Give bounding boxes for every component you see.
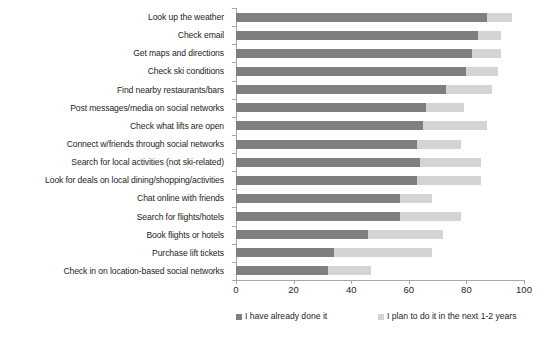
bar-row — [236, 49, 524, 58]
bar-segment-planned — [420, 158, 480, 167]
bar-row — [236, 194, 524, 203]
bar-segment-done — [236, 67, 466, 76]
bar-segment-done — [236, 85, 446, 94]
category-label: Check in on location-based social networ… — [63, 266, 224, 276]
category-label: Book flights or hotels — [146, 230, 224, 240]
y-axis-tick — [232, 171, 236, 172]
bar-segment-planned — [487, 13, 513, 22]
bar-segment-done — [236, 248, 334, 257]
bar-row — [236, 212, 524, 221]
category-label: Check email — [178, 30, 224, 40]
bar-segment-planned — [368, 230, 443, 239]
bar-row — [236, 230, 524, 239]
bar-segment-done — [236, 49, 472, 58]
bar-segment-done — [236, 212, 400, 221]
bar-segment-planned — [426, 103, 463, 112]
bar-segment-done — [236, 121, 423, 130]
x-axis-tick-label: 80 — [461, 284, 472, 296]
bar-segment-done — [236, 103, 426, 112]
y-axis-tick — [232, 62, 236, 63]
bar-row — [236, 13, 524, 22]
category-label: Search for local activities (not ski-rel… — [71, 157, 224, 167]
y-axis-tick — [232, 81, 236, 82]
category-label: Look up the weather — [148, 12, 224, 22]
y-axis-tick — [232, 153, 236, 154]
bar-segment-planned — [446, 85, 492, 94]
bar-row — [236, 266, 524, 275]
bar-segment-planned — [472, 49, 501, 58]
x-axis-tick-label: 0 — [233, 284, 238, 296]
y-axis-tick — [232, 226, 236, 227]
legend-item[interactable]: I plan to do it in the next 1-2 years — [378, 311, 516, 322]
bar-row — [236, 176, 524, 185]
category-label: Check what lifts are open — [130, 121, 224, 131]
y-axis-tick — [232, 117, 236, 118]
category-label: Chat online with friends — [137, 193, 224, 203]
y-axis-tick — [232, 99, 236, 100]
x-axis-tick-label: 20 — [288, 284, 299, 296]
plot-area — [236, 8, 524, 280]
bar-segment-done — [236, 13, 487, 22]
category-label: Find nearby restaurants/bars — [117, 85, 224, 95]
bar-segment-done — [236, 176, 417, 185]
bar-row — [236, 248, 524, 257]
stacked-bar-chart: Look up the weatherCheck emailGet maps a… — [0, 0, 546, 339]
legend-label: I plan to do it in the next 1-2 years — [387, 311, 516, 322]
bar-row — [236, 103, 524, 112]
legend-label: I have already done it — [245, 311, 327, 322]
bar-row — [236, 31, 524, 40]
bar-segment-done — [236, 31, 478, 40]
bar-segment-planned — [423, 121, 486, 130]
x-axis-tick-label: 40 — [346, 284, 357, 296]
bar-row — [236, 85, 524, 94]
bar-segment-done — [236, 266, 328, 275]
bar-row — [236, 67, 524, 76]
y-axis-tick — [232, 44, 236, 45]
x-axis-tick-label: 60 — [404, 284, 415, 296]
y-axis-tick — [232, 207, 236, 208]
bar-segment-done — [236, 140, 417, 149]
bar-segment-done — [236, 194, 400, 203]
category-label: Search for flights/hotels — [137, 212, 224, 222]
y-axis-tick — [232, 26, 236, 27]
bar-segment-planned — [417, 140, 460, 149]
bar-segment-planned — [400, 212, 460, 221]
category-label: Get maps and directions — [133, 48, 224, 58]
bar-segment-planned — [328, 266, 371, 275]
chart-legend: I have already done itI plan to do it in… — [236, 311, 546, 325]
legend-item[interactable]: I have already done it — [236, 311, 327, 322]
legend-swatch-icon — [236, 314, 242, 320]
x-axis-tick-label: 100 — [516, 284, 532, 296]
y-axis-tick — [232, 244, 236, 245]
y-axis-tick — [232, 189, 236, 190]
category-label: Look for deals on local dining/shopping/… — [45, 175, 224, 185]
y-axis-tick — [232, 8, 236, 9]
bar-row — [236, 158, 524, 167]
bar-segment-planned — [417, 176, 480, 185]
bar-row — [236, 121, 524, 130]
bar-segment-done — [236, 158, 420, 167]
category-label: Connect w/friends through social network… — [67, 139, 224, 149]
bar-segment-planned — [466, 67, 498, 76]
bar-segment-done — [236, 230, 368, 239]
category-label: Post messages/media on social networks — [70, 103, 224, 113]
x-axis-tick-labels: 020406080100 — [236, 284, 536, 298]
category-label: Purchase lift tickets — [152, 248, 224, 258]
category-axis-labels: Look up the weatherCheck emailGet maps a… — [0, 8, 230, 280]
x-axis-line — [236, 280, 525, 281]
y-axis-tick — [232, 262, 236, 263]
legend-swatch-icon — [378, 314, 384, 320]
bar-segment-planned — [478, 31, 501, 40]
bar-segment-planned — [400, 194, 432, 203]
y-axis-tick — [232, 135, 236, 136]
bar-segment-planned — [334, 248, 432, 257]
category-label: Check ski conditions — [148, 66, 224, 76]
bar-row — [236, 140, 524, 149]
